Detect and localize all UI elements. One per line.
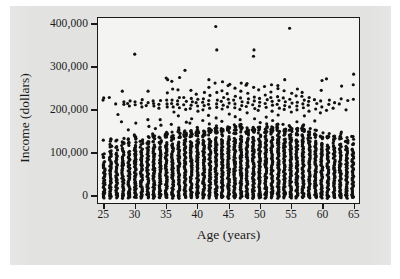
y-axis-title: Income (dollars)	[17, 23, 33, 213]
y-tick-label: 200,000	[50, 103, 88, 115]
figure-container: 0100,000200,000300,000400,000 2530354045…	[0, 0, 400, 279]
y-tick-label: 100,000	[50, 146, 88, 158]
x-tick-label: 45	[223, 208, 235, 220]
y-tick-label: 300,000	[50, 60, 88, 72]
y-axis-tick-labels: 0100,000200,000300,000400,000	[0, 17, 88, 204]
x-tick-label: 50	[254, 208, 266, 220]
y-tick-label: 400,000	[50, 17, 88, 29]
x-axis-tick-labels: 253035404550556065	[97, 208, 360, 226]
x-tick-label: 35	[160, 208, 172, 220]
x-axis-title: Age (years)	[97, 227, 360, 243]
x-tick-label: 65	[348, 208, 360, 220]
x-tick-label: 55	[285, 208, 297, 220]
y-tick-label: 0	[82, 189, 88, 201]
scatter-points-layer	[98, 18, 359, 203]
x-tick-label: 40	[191, 208, 203, 220]
x-tick-label: 60	[317, 208, 329, 220]
x-tick-label: 25	[98, 208, 110, 220]
x-tick-label: 30	[129, 208, 141, 220]
plot-area	[97, 17, 360, 204]
